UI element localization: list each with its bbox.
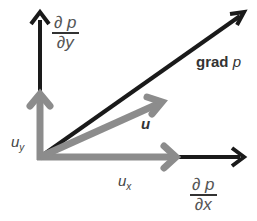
grad-word: grad xyxy=(196,53,233,70)
dp-dy-numerator: ∂ p xyxy=(52,14,79,34)
dp-dx-numerator: ∂ p xyxy=(190,176,217,196)
dp-dx-label: ∂ p ∂x xyxy=(190,176,217,214)
u-y-label: uy xyxy=(11,134,24,153)
grad-var: p xyxy=(233,53,241,70)
u-label: u xyxy=(141,116,150,131)
dp-dy-label: ∂ p ∂y xyxy=(52,14,79,52)
grad-p-label: grad p xyxy=(196,54,241,69)
dp-dx-denominator: ∂x xyxy=(190,196,217,214)
u-x-label: ux xyxy=(118,173,131,192)
dp-dy-denominator: ∂y xyxy=(52,34,79,52)
